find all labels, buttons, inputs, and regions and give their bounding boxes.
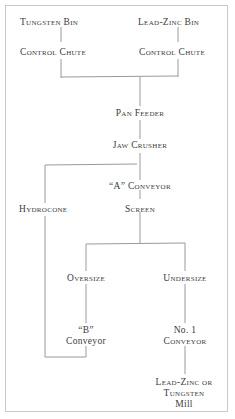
- node-control-chute-right: Control Chute: [139, 47, 205, 58]
- node-jaw-crusher: Jaw Crusher: [113, 140, 167, 151]
- node-no1-conveyor-line2: Conveyor: [164, 336, 207, 347]
- node-lead-zinc-bin: Lead-Zinc Bin: [138, 17, 199, 28]
- node-oversize: Oversize: [67, 273, 105, 284]
- node-mill-line2: Tungsten: [164, 388, 205, 399]
- node-b-conveyor-line1: “B”: [78, 325, 94, 336]
- node-no1-conveyor-line1: No. 1: [174, 325, 197, 336]
- node-b-conveyor-line2: Conveyor: [66, 336, 106, 347]
- node-mill-line3: Mill: [175, 399, 193, 410]
- node-screen: Screen: [125, 204, 155, 215]
- node-control-chute-left: Control Chute: [20, 47, 86, 58]
- node-a-conveyor: “A” Conveyor: [109, 181, 171, 192]
- node-hydrocone: Hydrocone: [19, 204, 67, 215]
- node-undersize: Undersize: [163, 273, 206, 284]
- node-tungsten-bin: Tungsten Bin: [20, 17, 78, 28]
- node-mill-line1: Lead-Zinc or: [156, 377, 213, 388]
- node-pan-feeder: Pan Feeder: [116, 108, 165, 119]
